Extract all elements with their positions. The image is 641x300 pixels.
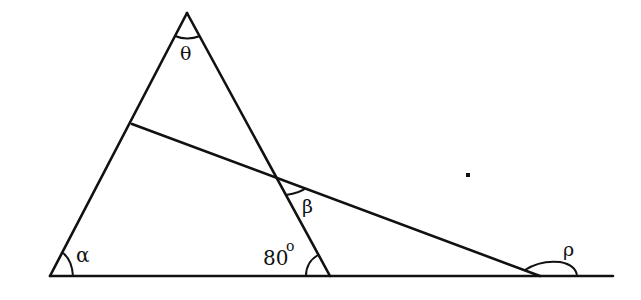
label-alpha: α	[76, 243, 90, 267]
label-degree: o	[286, 238, 294, 254]
label-rho: ρ	[563, 238, 574, 260]
angle-arc-beta	[286, 188, 306, 195]
label-80: 80	[263, 246, 288, 270]
label-beta: β	[302, 195, 313, 217]
triangle-right-side	[187, 13, 330, 276]
geometry-diagram: θ α β 80 o ρ	[0, 0, 641, 300]
transversal-line	[132, 124, 540, 276]
stray-dot	[466, 173, 470, 177]
angle-arc-80	[306, 255, 318, 276]
label-theta: θ	[180, 42, 191, 64]
angle-arc-alpha	[63, 253, 73, 276]
triangle-left-side	[50, 13, 187, 276]
angle-arc-theta	[175, 36, 200, 39]
